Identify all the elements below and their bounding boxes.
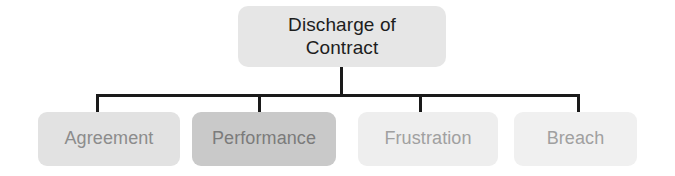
connector-drop-frustration bbox=[419, 94, 422, 114]
node-child-frustration: Frustration bbox=[358, 112, 498, 166]
node-child-label-breach: Breach bbox=[547, 128, 605, 149]
connector-drop-performance bbox=[258, 94, 261, 114]
node-child-breach: Breach bbox=[514, 112, 637, 166]
node-child-label-frustration: Frustration bbox=[384, 128, 471, 149]
node-root-discharge-of-contract: Discharge of Contract bbox=[238, 6, 446, 67]
node-root-label: Discharge of Contract bbox=[288, 14, 396, 59]
diagram-canvas: Discharge of Contract Agreement Performa… bbox=[0, 0, 675, 176]
connector-horizontal-bar bbox=[96, 94, 580, 97]
node-child-label-agreement: Agreement bbox=[65, 128, 154, 149]
connector-drop-breach bbox=[577, 94, 580, 114]
node-child-performance: Performance bbox=[192, 112, 336, 166]
node-child-agreement: Agreement bbox=[38, 112, 180, 166]
connector-drop-agreement bbox=[96, 94, 99, 114]
connector-trunk-root bbox=[340, 67, 343, 96]
node-child-label-performance: Performance bbox=[212, 128, 316, 149]
